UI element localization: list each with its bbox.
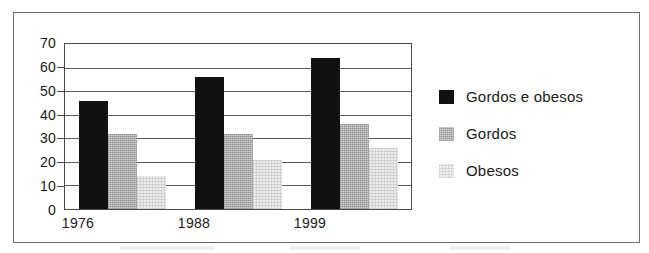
- bar-group-1999: [311, 44, 398, 209]
- legend-item-label: Gordos e obesos: [466, 88, 583, 105]
- y-axis-tick-label: 70: [40, 35, 56, 51]
- y-axis-tick-mark: [57, 91, 64, 92]
- legend-item-gordos[interactable]: Gordos: [439, 115, 634, 152]
- y-axis-label-group: 70 60 50 40 30 20 10 0: [22, 43, 56, 210]
- bar-gordos-1999[interactable]: [340, 124, 369, 209]
- x-axis-tick-label-1988: 1988: [149, 215, 239, 231]
- scan-artifact: [450, 246, 510, 250]
- bar-group-1976: [79, 44, 166, 209]
- legend-item-gordos-e-obesos[interactable]: Gordos e obesos: [439, 78, 634, 115]
- legend-item-label: Obesos: [466, 162, 519, 179]
- legend-swatch-icon: [439, 127, 454, 141]
- bar-gordos-e-obesos-1988[interactable]: [195, 77, 224, 209]
- legend-item-label: Gordos: [466, 125, 516, 142]
- chart-legend: Gordos e obesos Gordos Obesos: [439, 78, 634, 189]
- bar-group-1988: [195, 44, 282, 209]
- y-axis-tick-mark: [57, 138, 64, 139]
- chart-figure-frame: 70 60 50 40 30 20 10 0: [13, 12, 640, 243]
- bar-gordos-e-obesos-1999[interactable]: [311, 58, 340, 209]
- y-axis-tick-label: 40: [40, 107, 56, 123]
- y-axis-tick-label: 10: [40, 178, 56, 194]
- legend-swatch-icon: [439, 164, 454, 178]
- bar-obesos-1999[interactable]: [369, 148, 398, 209]
- bar-obesos-1976[interactable]: [137, 176, 166, 209]
- x-axis-tick-label-1999: 1999: [265, 215, 355, 231]
- y-axis-tick-mark: [57, 115, 64, 116]
- y-axis-tick-mark: [57, 162, 64, 163]
- x-axis-tick-label-1976: 1976: [33, 215, 123, 231]
- plot-area: [64, 43, 412, 210]
- bar-gordos-1976[interactable]: [108, 134, 137, 209]
- y-axis-tick-label: 60: [40, 59, 56, 75]
- scan-artifact: [120, 246, 215, 250]
- bar-obesos-1988[interactable]: [253, 160, 282, 210]
- y-axis-tick-label: 30: [40, 130, 56, 146]
- scan-artifact: [290, 246, 360, 250]
- y-axis-tick-label: 20: [40, 154, 56, 170]
- y-axis-tick-mark: [57, 186, 64, 187]
- y-axis-tick-label: 50: [40, 83, 56, 99]
- legend-swatch-icon: [439, 90, 454, 104]
- bar-gordos-e-obesos-1976[interactable]: [79, 101, 108, 209]
- bar-gordos-1988[interactable]: [224, 134, 253, 209]
- legend-item-obesos[interactable]: Obesos: [439, 152, 634, 189]
- y-axis-tick-mark: [57, 67, 64, 68]
